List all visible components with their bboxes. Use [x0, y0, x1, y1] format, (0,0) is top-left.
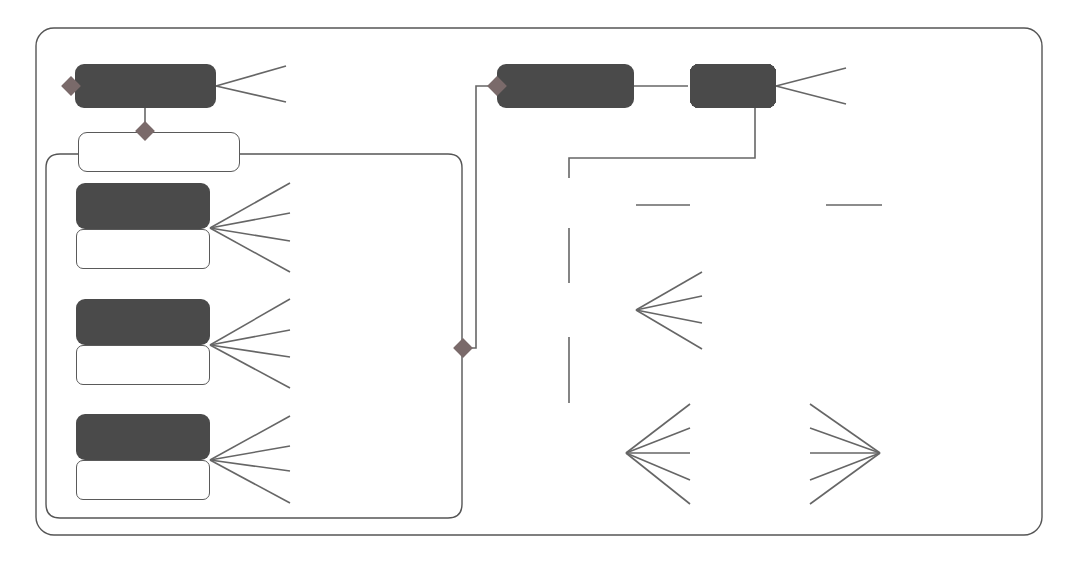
method-direct-observation [76, 229, 210, 269]
method-cromatic-readability [76, 345, 210, 385]
node-waysensing-evaluation [78, 132, 240, 172]
method-haptic-tests [76, 460, 210, 500]
node-results-evaluation [497, 64, 634, 108]
node-2nd-sample-group [690, 64, 776, 108]
node-color-and-vision [76, 183, 210, 229]
node-1st-sample-group [75, 64, 216, 108]
research-methodology-diagram [0, 0, 1071, 567]
node-haptic-aural-perception [76, 414, 210, 460]
node-low-vision-perception [76, 299, 210, 345]
